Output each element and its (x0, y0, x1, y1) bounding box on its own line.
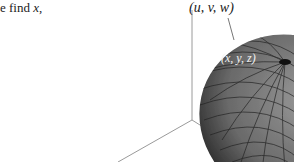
point-label-xyz: (x, y, z) (221, 51, 256, 66)
leader-line (228, 18, 234, 40)
pole-point (279, 59, 291, 65)
x-axis (118, 120, 192, 162)
ellipsoid-surface (171, 5, 294, 162)
ellipsoid-figure (0, 0, 294, 162)
point-label-uvw: (u, v, w) (189, 0, 234, 16)
